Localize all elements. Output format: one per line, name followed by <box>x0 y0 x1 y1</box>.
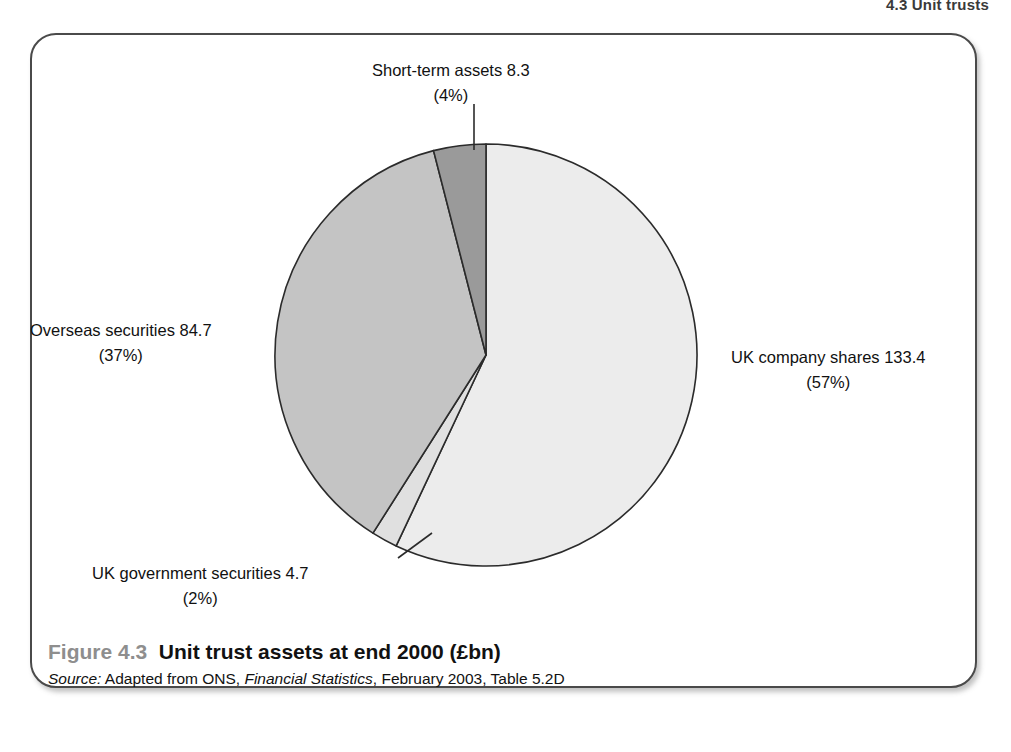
slice-label-uk-shares-percent: (57%) <box>731 370 925 395</box>
slice-label-uk-company-shares: UK company shares 133.4 (57%) <box>731 345 925 395</box>
caption-source-line: Source: Adapted from ONS, Financial Stat… <box>48 667 908 690</box>
caption-title-text: Unit trust assets at end 2000 (£bn) <box>147 640 501 663</box>
slice-label-uk-shares-name: UK company shares 133.4 <box>731 348 925 366</box>
caption-title-line: Figure 4.3 Unit trust assets at end 2000… <box>48 638 908 665</box>
slice-label-uk-gov-name: UK government securities 4.7 <box>92 564 308 582</box>
caption-source-body-1: Adapted from ONS, <box>101 670 244 687</box>
caption-source-body-2: , February 2003, Table 5.2D <box>373 670 565 687</box>
slice-label-short-term-assets: Short-term assets 8.3 (4%) <box>372 58 530 108</box>
slice-label-short-term-percent: (4%) <box>372 83 530 108</box>
caption-figure-number: Figure 4.3 <box>48 640 147 663</box>
slice-label-overseas-name: Overseas securities 84.7 <box>30 321 212 339</box>
figure-caption: Figure 4.3 Unit trust assets at end 2000… <box>48 638 908 690</box>
slice-label-uk-gov-percent: (2%) <box>92 586 308 611</box>
caption-source-publication: Financial Statistics <box>244 670 372 687</box>
caption-source-label: Source: <box>48 670 101 687</box>
slice-label-short-term-name: Short-term assets 8.3 <box>372 61 530 79</box>
slice-label-overseas-percent: (37%) <box>30 343 212 368</box>
slice-label-uk-government-securities: UK government securities 4.7 (2%) <box>92 561 308 611</box>
page-running-header: 4.3 Unit trusts <box>886 0 989 13</box>
slice-label-overseas-securities: Overseas securities 84.7 (37%) <box>30 318 212 368</box>
